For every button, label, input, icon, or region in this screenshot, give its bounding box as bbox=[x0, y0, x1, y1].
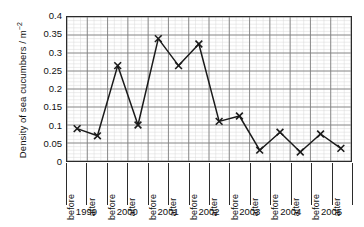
x-axis-tick-labels: beforeafterbeforeafterbeforeafterbeforea… bbox=[66, 163, 352, 209]
x-axis-tick-mark bbox=[66, 163, 67, 205]
x-axis-tick-label: before bbox=[66, 163, 86, 209]
x-axis-tick-mark bbox=[311, 163, 312, 205]
x-axis-tick-mark bbox=[86, 163, 87, 205]
x-axis-tick-label: before bbox=[189, 163, 209, 209]
x-axis-group-label: 2003 bbox=[239, 206, 260, 217]
x-axis-tick-label: after bbox=[332, 163, 352, 209]
y-axis-tick-label: 0.15 bbox=[28, 102, 62, 112]
x-axis-group-label: 2000 bbox=[117, 206, 138, 217]
x-axis-tick-label: after bbox=[168, 163, 188, 209]
y-axis-tick-label: 0 bbox=[28, 157, 62, 167]
y-axis-tick-label: 0.1 bbox=[28, 121, 62, 131]
y-axis-tick-label: 0.2 bbox=[28, 84, 62, 94]
x-axis-tick-mark bbox=[352, 163, 353, 205]
y-axis-tick-label: 0.3 bbox=[28, 48, 62, 58]
x-axis-group-label: 2002 bbox=[198, 206, 219, 217]
x-axis-tick-label: before bbox=[270, 163, 290, 209]
data-series-line bbox=[67, 17, 351, 161]
x-axis-tick-label: after bbox=[291, 163, 311, 209]
x-axis-tick-label: after bbox=[127, 163, 147, 209]
y-axis-tick-label: 0.4 bbox=[28, 11, 62, 21]
x-axis-group-label: 2005 bbox=[321, 206, 342, 217]
x-axis-tick-label: after bbox=[250, 163, 270, 209]
x-axis-tick-label: before bbox=[148, 163, 168, 209]
x-axis-tick-mark bbox=[209, 163, 210, 205]
x-axis-tick-label: after bbox=[86, 163, 106, 209]
chart-container: Density of sea cucumbers / m−2 0.40.350.… bbox=[0, 0, 364, 227]
y-axis-tick-label: 0.05 bbox=[28, 139, 62, 149]
x-axis-tick-mark bbox=[189, 163, 190, 205]
x-axis-group-label: 1999 bbox=[76, 206, 97, 217]
plot-area bbox=[66, 16, 352, 162]
x-axis-tick-mark bbox=[148, 163, 149, 205]
x-axis-tick-mark bbox=[250, 163, 251, 205]
y-axis-tick-label: 0.35 bbox=[28, 29, 62, 39]
x-axis-tick-mark bbox=[107, 163, 108, 205]
x-axis-tick-label: after bbox=[209, 163, 229, 209]
y-axis-tick-label: 0.25 bbox=[28, 66, 62, 76]
x-axis-tick-label: before bbox=[311, 163, 331, 209]
y-axis-ticks: 0.40.350.30.250.20.150.10.050 bbox=[24, 0, 62, 227]
y-axis-title-exponent: −2 bbox=[16, 22, 23, 30]
x-axis-group-label: 2004 bbox=[280, 206, 301, 217]
x-axis-tick-label: before bbox=[107, 163, 127, 209]
x-axis-tick-mark bbox=[332, 163, 333, 205]
x-axis-tick-mark bbox=[291, 163, 292, 205]
x-axis-group-label: 2001 bbox=[158, 206, 179, 217]
x-axis-tick-mark bbox=[270, 163, 271, 205]
x-axis-tick-mark bbox=[229, 163, 230, 205]
x-axis-tick-label: before bbox=[229, 163, 249, 209]
x-axis-tick-mark bbox=[127, 163, 128, 205]
x-axis-tick-mark bbox=[168, 163, 169, 205]
x-axis-group-labels: 1999200020012002200320042005 bbox=[66, 206, 352, 222]
